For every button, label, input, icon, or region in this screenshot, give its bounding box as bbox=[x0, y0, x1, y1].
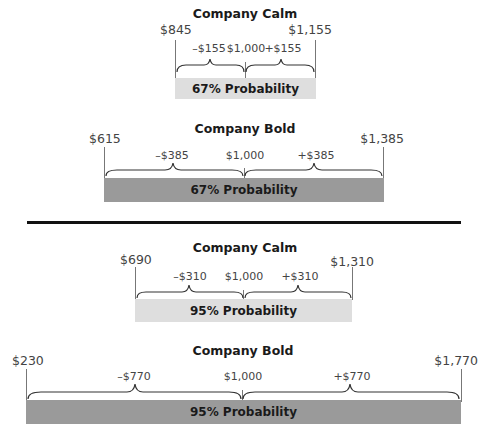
brace-icon bbox=[176, 58, 315, 74]
brace-icon bbox=[27, 383, 461, 401]
plus-deviation-label: +$310 bbox=[281, 270, 318, 283]
brace-icon bbox=[136, 284, 352, 300]
probability-bar: 95% Probability bbox=[135, 299, 352, 322]
plus-deviation-label: +$385 bbox=[297, 149, 334, 162]
high-tick bbox=[461, 369, 462, 402]
high-tick bbox=[315, 40, 316, 80]
low-value-label: $845 bbox=[160, 22, 192, 37]
high-tick bbox=[383, 147, 384, 180]
high-value-label: $1,385 bbox=[360, 131, 404, 146]
center-value-label: $1,000 bbox=[227, 42, 266, 55]
section-divider bbox=[27, 221, 461, 224]
minus-deviation-label: –$770 bbox=[117, 370, 151, 383]
panel-title: Company Calm bbox=[193, 240, 298, 255]
panel-title: Company Calm bbox=[193, 6, 298, 21]
minus-deviation-label: –$385 bbox=[155, 149, 189, 162]
probability-bar: 67% Probability bbox=[104, 178, 384, 202]
high-value-label: $1,770 bbox=[434, 353, 478, 368]
panel-title: Company Bold bbox=[193, 343, 294, 358]
center-value-label: $1,000 bbox=[226, 149, 265, 162]
brace-icon bbox=[105, 162, 383, 178]
panel-title: Company Bold bbox=[195, 121, 296, 136]
high-tick bbox=[352, 267, 353, 300]
minus-deviation-label: –$155 bbox=[192, 42, 226, 55]
low-value-label: $690 bbox=[120, 252, 152, 267]
plus-deviation-label: +$770 bbox=[333, 370, 370, 383]
low-value-label: $615 bbox=[89, 131, 121, 146]
low-value-label: $230 bbox=[12, 353, 44, 368]
probability-bar: 67% Probability bbox=[175, 78, 316, 99]
center-value-label: $1,000 bbox=[224, 370, 263, 383]
probability-bar: 95% Probability bbox=[26, 400, 461, 424]
minus-deviation-label: –$310 bbox=[173, 270, 207, 283]
center-value-label: $1,000 bbox=[225, 270, 264, 283]
high-value-label: $1,155 bbox=[288, 22, 332, 37]
plus-deviation-label: +$155 bbox=[264, 42, 301, 55]
